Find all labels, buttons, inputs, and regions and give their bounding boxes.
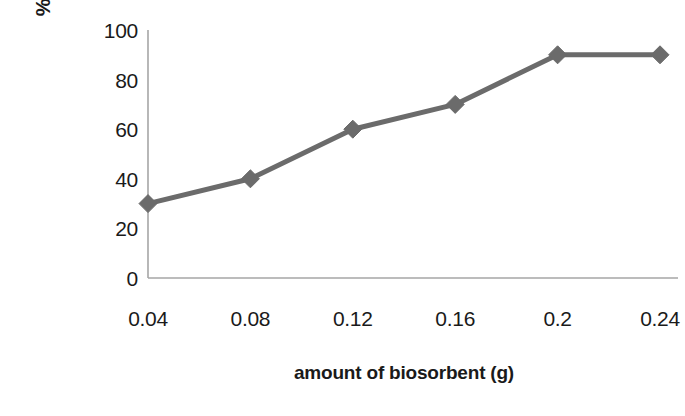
x-axis-title: amount of biosorbent (g) [148,362,660,384]
series-line [148,55,660,204]
data-point-marker [549,46,567,64]
data-point-marker [241,170,259,188]
data-point-marker [344,120,362,138]
data-series-group [139,46,669,213]
data-point-marker [446,95,464,113]
data-point-marker [139,195,157,213]
axis-lines [148,30,678,278]
data-point-marker [651,46,669,64]
